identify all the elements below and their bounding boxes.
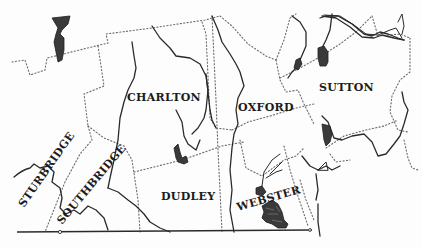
town-label-oxford: OXFORD <box>238 101 294 114</box>
map-canvas: STURBRIDGE CHARLTON SOUTHBRIDGE DUDLEY O… <box>0 0 422 248</box>
town-label-charlton: CHARLTON <box>127 91 201 104</box>
boundary-east-river-lower <box>330 154 350 162</box>
river-east-triangle <box>318 162 328 170</box>
lake-oxford-brook <box>294 58 302 70</box>
river-sutton-north-stream <box>322 14 332 48</box>
river-east-vertical-lower <box>318 204 320 236</box>
boundary-charlton-sturbridge <box>84 46 104 126</box>
boundary-oxford-north <box>220 16 276 60</box>
town-label-dudley: DUDLEY <box>161 190 215 203</box>
river-east-south <box>302 156 340 170</box>
town-label-sutton: SUTTON <box>319 81 374 94</box>
river-sutton-tributary-ne <box>398 14 404 34</box>
boundary-sutton-north <box>280 16 372 78</box>
boundary-southwest-edge <box>300 180 314 220</box>
river-east-mumford <box>322 92 408 156</box>
lake-east <box>322 124 332 146</box>
boundary-marker <box>58 230 61 233</box>
lake-sutton <box>318 46 328 66</box>
lake-charlton-south <box>174 144 188 164</box>
boundary-corner-marker <box>309 229 312 232</box>
boundary-dudley-webster <box>240 140 304 176</box>
lake-sturbridge-north <box>52 16 70 62</box>
boundary-se-corner <box>404 140 418 170</box>
town-label-southbridge: SOUTHBRIDGE <box>54 142 128 227</box>
boundary-sutton-east <box>390 38 410 132</box>
river-webster-fork-1 <box>262 154 280 186</box>
river-east-vertical <box>316 174 318 200</box>
boundary-north-sturbridge <box>12 16 220 75</box>
boundary-charlton-dudley <box>134 142 244 172</box>
boundary-oxford-sutton <box>276 14 296 60</box>
river-sutton-blackstone-2 <box>322 16 404 40</box>
town-labels: STURBRIDGE CHARLTON SOUTHBRIDGE DUDLEY O… <box>16 81 374 227</box>
town-map: STURBRIDGE CHARLTON SOUTHBRIDGE DUDLEY O… <box>0 0 422 248</box>
